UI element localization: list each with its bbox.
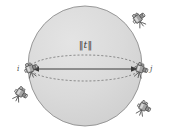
camera-icon-bottom-left [11, 85, 30, 105]
figure-root: ‖t‖ i j [0, 0, 171, 133]
uncertainty-sphere [28, 6, 142, 126]
camera-icon-top-right [130, 9, 150, 29]
camera-icon-bottom-right [134, 99, 152, 118]
figure-canvas [0, 0, 171, 133]
